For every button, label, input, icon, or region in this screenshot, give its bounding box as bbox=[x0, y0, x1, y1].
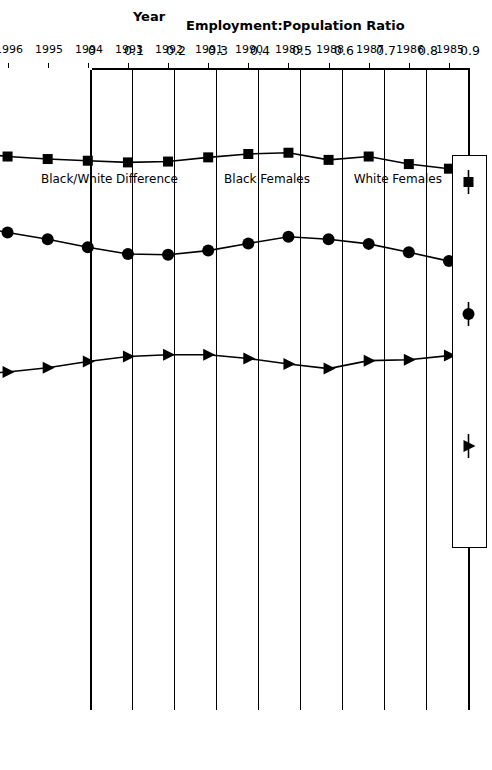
ratio-tick-0.2: 0.2 bbox=[166, 43, 186, 58]
circle-marker bbox=[82, 241, 94, 253]
square-marker bbox=[83, 156, 93, 166]
triangle-marker bbox=[283, 358, 295, 370]
circle-marker bbox=[2, 227, 14, 239]
legend-markers bbox=[451, 156, 486, 549]
square-marker bbox=[163, 157, 173, 167]
ratio-tick-0.1: 0.1 bbox=[124, 43, 144, 58]
triangle-marker bbox=[163, 349, 175, 361]
circle-marker bbox=[403, 246, 415, 258]
legend: White FemalesBlack FemalesBlack/White Di… bbox=[452, 155, 487, 548]
legend-label-2: Black/White Difference bbox=[41, 172, 178, 186]
square-marker bbox=[203, 152, 213, 162]
year-tick-1989 bbox=[288, 63, 289, 68]
triangle-marker bbox=[364, 355, 376, 367]
circle-marker bbox=[363, 238, 375, 250]
legend-label-1: Black Females bbox=[224, 172, 310, 186]
triangle-marker bbox=[43, 362, 55, 374]
legend-label-0: White Females bbox=[354, 172, 442, 186]
circle-marker bbox=[463, 308, 475, 320]
year-tick-1986 bbox=[409, 63, 410, 68]
square-marker bbox=[243, 149, 253, 159]
square-marker bbox=[364, 152, 374, 162]
circle-marker bbox=[242, 237, 254, 249]
circle-marker bbox=[162, 249, 174, 261]
year-tick-1996 bbox=[8, 63, 9, 68]
ratio-tick-0: 0 bbox=[88, 43, 96, 58]
year-tick-1988 bbox=[329, 63, 330, 68]
triangle-marker bbox=[324, 363, 336, 375]
ratio-tick-0.9: 0.9 bbox=[460, 43, 480, 58]
ratio-tick-0.8: 0.8 bbox=[418, 43, 438, 58]
square-marker bbox=[283, 148, 293, 158]
ratio-tick-0.7: 0.7 bbox=[376, 43, 396, 58]
ratio-tick-0.5: 0.5 bbox=[292, 43, 312, 58]
triangle-marker bbox=[464, 440, 476, 452]
year-tick-1987 bbox=[369, 63, 370, 68]
y-axis-title: Employment:Population Ratio bbox=[186, 18, 405, 33]
x-axis-title: Year bbox=[133, 9, 165, 24]
chart-figure: 1985198619871988198919901991199219931994… bbox=[0, 0, 492, 770]
square-marker bbox=[464, 177, 474, 187]
square-marker bbox=[43, 154, 53, 164]
year-label-1995: 1995 bbox=[35, 43, 63, 56]
triangle-marker bbox=[3, 366, 15, 378]
year-tick-1991 bbox=[208, 63, 209, 68]
triangle-marker bbox=[203, 349, 215, 361]
year-tick-1992 bbox=[168, 63, 169, 68]
ratio-tick-0.3: 0.3 bbox=[208, 43, 228, 58]
circle-marker bbox=[202, 245, 214, 257]
plot-area bbox=[92, 68, 470, 710]
ratio-tick-0.4: 0.4 bbox=[250, 43, 270, 58]
square-marker bbox=[324, 155, 334, 165]
year-tick-1993 bbox=[128, 63, 129, 68]
series-black-females bbox=[0, 198, 455, 267]
series-line bbox=[0, 151, 449, 168]
series-black-white-difference bbox=[0, 349, 456, 411]
circle-marker bbox=[282, 231, 294, 243]
triangle-marker bbox=[123, 350, 135, 362]
circle-marker bbox=[122, 248, 134, 260]
year-tick-1994 bbox=[88, 63, 89, 68]
ratio-tick-0.6: 0.6 bbox=[334, 43, 354, 58]
year-tick-1985 bbox=[449, 63, 450, 68]
square-marker bbox=[404, 159, 414, 169]
series-line bbox=[0, 204, 449, 261]
circle-marker bbox=[42, 233, 54, 245]
series-line bbox=[0, 355, 449, 405]
year-label-1996: 1996 bbox=[0, 43, 23, 56]
year-tick-1995 bbox=[48, 63, 49, 68]
square-marker bbox=[3, 152, 13, 162]
year-tick-1990 bbox=[248, 63, 249, 68]
square-marker bbox=[123, 157, 133, 167]
triangle-marker bbox=[404, 354, 416, 366]
triangle-marker bbox=[243, 353, 255, 365]
triangle-marker bbox=[83, 355, 95, 367]
series-white-females bbox=[0, 146, 454, 173]
circle-marker bbox=[323, 233, 335, 245]
data-series-layer bbox=[91, 70, 469, 712]
